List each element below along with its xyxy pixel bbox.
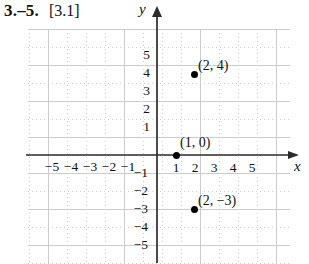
y-tick-label: −5 — [126, 238, 148, 252]
y-axis-arrowhead — [152, 6, 162, 17]
y-tick-label: −2 — [126, 184, 148, 198]
x-tick-label: 5 — [241, 161, 263, 175]
plot-point — [173, 152, 180, 159]
y-tick-label: −1 — [126, 166, 148, 180]
axes — [0, 0, 309, 264]
x-axis-label: x — [294, 158, 301, 175]
plot-point — [191, 206, 198, 213]
y-tick-label: 1 — [128, 120, 150, 134]
plot-point-label: (2, −3) — [198, 194, 236, 208]
y-tick-label: 3 — [128, 84, 150, 98]
y-tick-label: 2 — [128, 102, 150, 116]
y-tick-label: −3 — [126, 202, 148, 216]
plot-point — [191, 71, 198, 78]
coordinate-plane: y x −5 −4 −3 −2 −1 1 2 3 4 5 5 4 3 2 1 −… — [0, 0, 309, 264]
y-tick-label: −4 — [126, 220, 148, 234]
y-tick-label: 5 — [128, 48, 150, 62]
plot-point-label: (1, 0) — [180, 136, 210, 150]
y-tick-label: 4 — [128, 66, 150, 80]
plot-point-label: (2, 4) — [198, 59, 228, 73]
y-axis-label: y — [139, 1, 146, 18]
